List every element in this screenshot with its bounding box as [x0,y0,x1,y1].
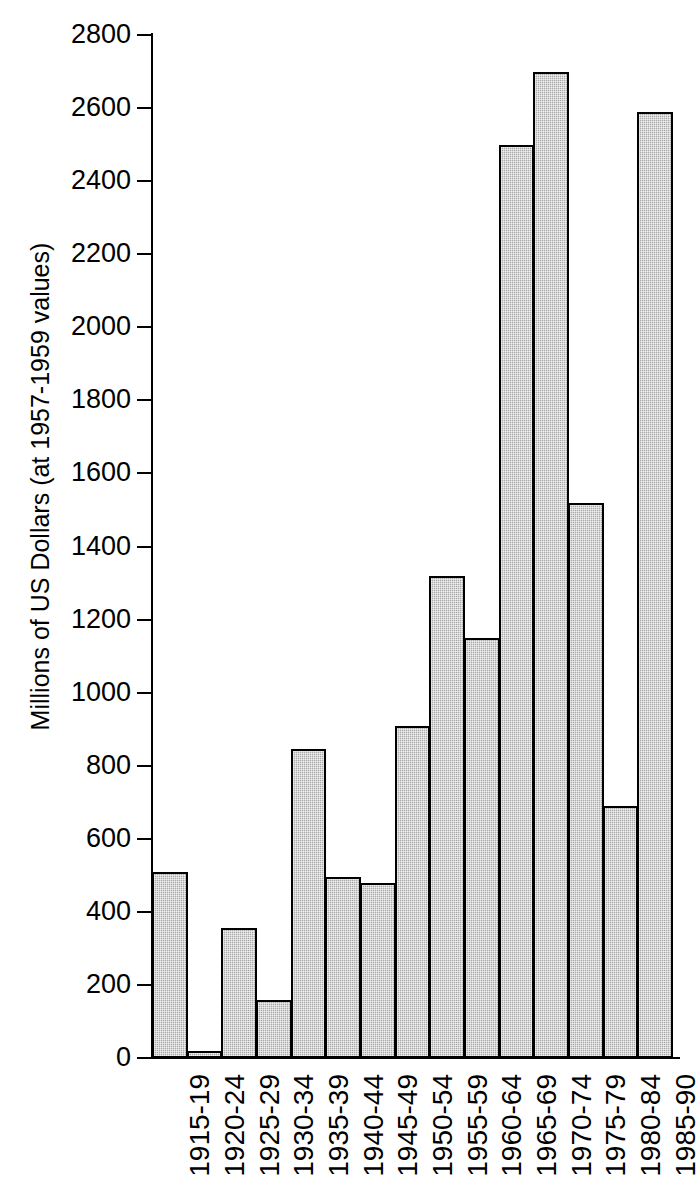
y-tick-mark [137,692,152,694]
x-tick-label: 1950-54 [426,1074,460,1199]
y-tick-label: 1200 [0,606,131,633]
x-tick-label: 1935-39 [322,1074,356,1199]
y-tick-label: 2600 [0,94,131,121]
y-tick-mark [137,765,152,767]
y-tick-label-text: 800 [11,752,131,779]
y-tick-label-text: 200 [11,971,131,998]
y-tick-label-text: 2400 [11,167,131,194]
y-tick-label: 1600 [0,459,131,486]
y-tick-mark [137,1057,152,1059]
x-tick-label: 1955-59 [461,1074,495,1199]
y-tick-label-text: 1600 [11,459,131,486]
bar [603,806,638,1058]
bar [499,145,534,1058]
x-tick-label: 1915-19 [183,1074,217,1199]
y-tick-mark [137,472,152,474]
y-tick-label-text: 2200 [11,240,131,267]
plot-area [152,35,672,1058]
bar [395,726,430,1058]
y-tick-label-text: 1800 [11,386,131,413]
y-tick-label: 2000 [0,313,131,340]
x-tick-label: 1960-64 [495,1074,529,1199]
y-tick-label: 2200 [0,240,131,267]
y-tick-label: 400 [0,898,131,925]
y-tick-mark [137,180,152,182]
bar [256,1000,292,1058]
x-tick-label: 1920-24 [218,1074,252,1199]
y-tick-mark [137,911,152,913]
y-tick-label: 2800 [0,21,131,48]
y-tick-mark [137,107,152,109]
x-tick-label: 1980-84 [634,1074,668,1199]
bar [533,72,569,1058]
bar [429,576,465,1058]
y-tick-mark [137,326,152,328]
bar [464,638,500,1058]
y-tick-mark [137,34,152,36]
bar [187,1051,222,1058]
y-tick-label-text: 1000 [11,679,131,706]
y-tick-label: 600 [0,825,131,852]
x-tick-label: 1925-29 [253,1074,287,1199]
bar [568,503,604,1058]
y-tick-mark [137,546,152,548]
bar-chart: Millions of US Dollars (at 1957-1959 val… [0,0,698,1199]
y-tick-label-text: 1400 [11,533,131,560]
y-tick-label: 1400 [0,533,131,560]
x-tick-label: 1970-74 [565,1074,599,1199]
y-tick-label-text: 2800 [11,21,131,48]
x-tick-label: 1945-49 [391,1074,425,1199]
y-tick-label-text: 1200 [11,606,131,633]
y-tick-label: 800 [0,752,131,779]
y-tick-label-text: 0 [11,1044,131,1071]
bar [221,928,257,1058]
y-tick-mark [137,838,152,840]
bar [325,877,361,1058]
y-tick-mark [137,619,152,621]
y-tick-label: 1800 [0,386,131,413]
y-tick-label: 0 [0,1044,131,1071]
y-tick-label-text: 600 [11,825,131,852]
x-tick-label: 1940-44 [357,1074,391,1199]
y-tick-label: 1000 [0,679,131,706]
y-tick-mark [137,253,152,255]
x-tick-label: 1985-90 [669,1074,698,1199]
bar [291,749,326,1058]
y-tick-label-text: 400 [11,898,131,925]
y-tick-label: 2400 [0,167,131,194]
bar [637,112,673,1058]
y-tick-label-text: 2600 [11,94,131,121]
x-tick-label: 1965-69 [530,1074,564,1199]
y-tick-label-text: 2000 [11,313,131,340]
x-tick-label: 1975-79 [599,1074,633,1199]
x-tick-label: 1930-34 [287,1074,321,1199]
y-tick-label: 200 [0,971,131,998]
bar [152,872,188,1058]
y-tick-mark [137,399,152,401]
bar [360,883,396,1058]
y-tick-mark [137,984,152,986]
